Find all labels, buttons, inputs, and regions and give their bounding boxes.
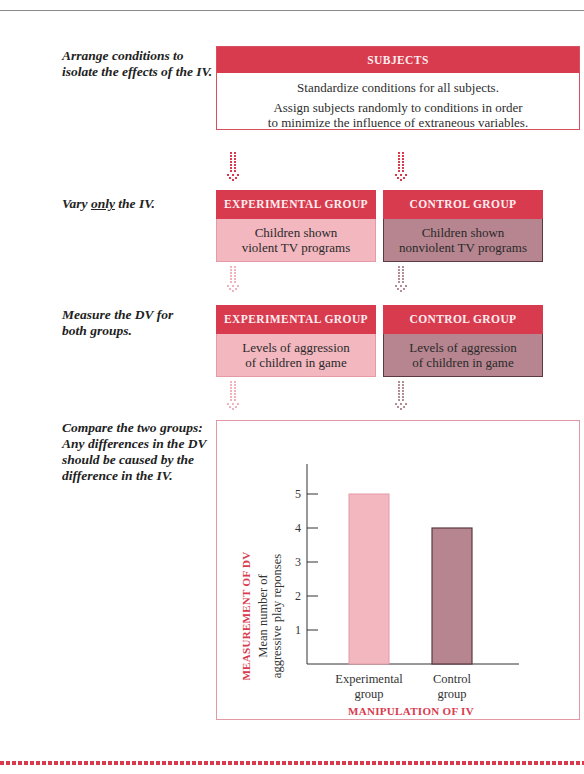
subjects-box: SUBJECTS Standardize conditions for all …: [216, 46, 580, 130]
group-text: Children shown: [217, 225, 375, 240]
group-text: nonviolent TV programs: [384, 240, 542, 255]
group-body: Children shown nonviolent TV programs: [383, 219, 543, 262]
x-category-label: group: [354, 687, 383, 701]
bar-control: [432, 528, 472, 664]
step-label-compare: Compare the two groups: Any differences …: [62, 420, 207, 484]
y-axis-outer-label: MEASUREMENT OF DV: [240, 551, 252, 680]
header-rule: [0, 10, 584, 11]
group-header: EXPERIMENTAL GROUP: [216, 190, 376, 219]
bar-chart: MEASUREMENT OF DV Mean number of aggress…: [217, 421, 578, 718]
group-text: violent TV programs: [217, 240, 375, 255]
group-text: Levels of aggression: [384, 340, 542, 355]
x-category-label: Control: [433, 672, 472, 686]
dotted-arrow-down-icon: [227, 381, 239, 417]
group-text: of children in game: [384, 355, 542, 370]
step-label-line: isolate the effects of the IV.: [62, 64, 212, 80]
step-label-line: both groups.: [62, 323, 173, 339]
group-header: CONTROL GROUP: [383, 190, 543, 219]
step-label-line: Measure the DV for: [62, 307, 173, 323]
dotted-arrow-down-icon: [395, 381, 407, 417]
step-label-line: should be caused by the: [62, 452, 207, 468]
bar-experimental: [349, 494, 389, 664]
y-ticks: [307, 494, 318, 630]
step-label-line: Compare the two groups:: [62, 420, 207, 436]
group-text: Children shown: [384, 225, 542, 240]
y-axis-label-line: Mean number of: [256, 574, 270, 658]
subjects-text: Standardize conditions for all subjects.: [217, 80, 579, 95]
dotted-arrow-down-icon: [227, 266, 239, 300]
subjects-text: to minimize the influence of extraneous …: [217, 115, 579, 130]
step-label-line: Arrange conditions to: [62, 48, 212, 64]
measurement-control-box: CONTROL GROUP Levels of aggression of ch…: [383, 305, 543, 377]
y-tick-label: 5: [295, 487, 301, 501]
measurement-experimental-box: EXPERIMENTAL GROUP Levels of aggression …: [216, 305, 376, 377]
step-label-line: difference in the IV.: [62, 468, 207, 484]
step-label-emphasis: only: [91, 196, 115, 211]
dotted-arrow-down-icon: [395, 152, 407, 186]
step-label-line: Any differences in the DV: [62, 436, 207, 452]
footer-dotted-rule: [0, 761, 584, 765]
group-text: of children in game: [217, 355, 375, 370]
results-chart-box: MEASUREMENT OF DV Mean number of aggress…: [216, 420, 580, 720]
x-axis-label: MANIPULATION OF IV: [348, 705, 474, 717]
step-label-measure: Measure the DV for both groups.: [62, 307, 173, 339]
y-tick-label: 2: [295, 589, 301, 603]
y-tick-label: 3: [295, 555, 301, 569]
step-label-text: the IV.: [115, 196, 155, 211]
group-body: Levels of aggression of children in game: [216, 334, 376, 377]
y-tick-label: 1: [295, 623, 301, 637]
dotted-arrow-down-icon: [395, 266, 407, 300]
y-tick-label: 4: [295, 521, 301, 535]
step-label-text: Vary: [62, 196, 91, 211]
x-category-label: group: [437, 687, 466, 701]
subjects-text: Assign subjects randomly to conditions i…: [217, 100, 579, 115]
subjects-header: SUBJECTS: [217, 47, 579, 73]
group-body: Levels of aggression of children in game: [383, 334, 543, 377]
x-category-label: Experimental: [335, 672, 403, 686]
group-body: Children shown violent TV programs: [216, 219, 376, 262]
manipulation-experimental-box: EXPERIMENTAL GROUP Children shown violen…: [216, 190, 376, 262]
group-header: EXPERIMENTAL GROUP: [216, 305, 376, 334]
manipulation-control-box: CONTROL GROUP Children shown nonviolent …: [383, 190, 543, 262]
y-axis-label-line: aggressive play reponses: [270, 554, 284, 678]
group-text: Levels of aggression: [217, 340, 375, 355]
subjects-body: Standardize conditions for all subjects.…: [217, 73, 579, 130]
group-header: CONTROL GROUP: [383, 305, 543, 334]
step-label-arrange: Arrange conditions to isolate the effect…: [62, 48, 212, 80]
step-label-vary: Vary only the IV.: [62, 196, 155, 212]
dotted-arrow-down-icon: [227, 152, 239, 186]
